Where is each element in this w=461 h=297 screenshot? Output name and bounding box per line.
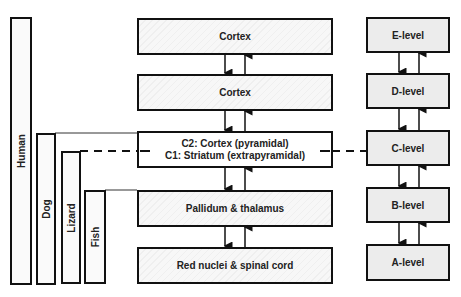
species-bar-dog: Dog: [36, 133, 56, 285]
level-label: A-level: [392, 257, 425, 268]
species-label: Lizard: [66, 203, 77, 232]
level-label: B-level: [392, 200, 425, 211]
species-bar-fish: Fish: [84, 190, 106, 284]
structure-label-c2: C2: Cortex (pyramidal): [181, 138, 288, 150]
structure-cortex: Cortex: [137, 74, 333, 111]
structure-label: Pallidum & thalamus: [186, 203, 284, 214]
level-label: C-level: [392, 143, 425, 154]
structure-label-c1: C1: Striatum (extrapyramidal): [165, 150, 305, 162]
structure-red-nuclei-spinal-cord: Red nuclei & spinal cord: [137, 247, 333, 284]
species-bar-lizard: Lizard: [61, 151, 81, 284]
structure-pallidum-thalamus: Pallidum & thalamus: [137, 190, 333, 227]
structure-cortex-striatum: C2: Cortex (pyramidal) C1: Striatum (ext…: [137, 131, 333, 168]
species-label: Human: [16, 134, 27, 168]
structure-label: Cortex: [219, 87, 251, 98]
level-e: E-level: [366, 17, 450, 53]
level-c: C-level: [366, 130, 450, 166]
species-label: Fish: [90, 227, 101, 248]
structure-label: Red nuclei & spinal cord: [177, 260, 294, 271]
species-label: Dog: [41, 199, 52, 218]
level-d: D-level: [366, 73, 450, 109]
structure-label: Cortex: [219, 31, 251, 42]
level-a: A-level: [366, 244, 450, 281]
species-bar-human: Human: [10, 17, 32, 285]
level-b: B-level: [366, 187, 450, 223]
level-label: E-level: [392, 30, 424, 41]
level-label: D-level: [392, 86, 425, 97]
structure-cortex-top: Cortex: [137, 18, 333, 55]
